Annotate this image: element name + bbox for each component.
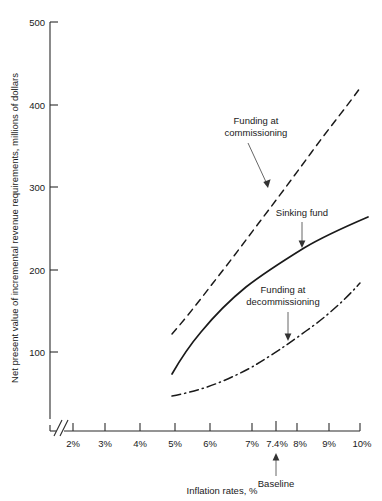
x-tick-label: 10%	[352, 438, 372, 449]
x-tick-label: 7%	[245, 438, 259, 449]
annotation-funding-at-commissioning: Funding at commissioning	[225, 115, 288, 188]
y-tick-label: 200	[29, 265, 45, 276]
baseline-label: Baseline	[258, 478, 294, 489]
y-tick-400: 400	[29, 100, 58, 111]
y-ticks-group: 100 200 300 400 500	[29, 17, 58, 358]
axis-break-marks	[54, 420, 68, 436]
x-tick-5pct: 5%	[168, 423, 182, 449]
annotation-label-line2: commissioning	[225, 127, 288, 138]
y-tick-100: 100	[29, 347, 58, 358]
axes-group	[50, 22, 360, 436]
chart-canvas: 100 200 300 400 500 2%	[0, 0, 382, 501]
x-tick-label: 6%	[203, 438, 217, 449]
x-tick-10pct: 10%	[352, 438, 372, 449]
x-tick-6pct: 6%	[203, 423, 217, 449]
x-tick-2pct: 2%	[66, 423, 80, 449]
y-tick-300: 300	[29, 182, 58, 193]
x-tick-7pct: 7%	[245, 423, 259, 449]
y-tick-label: 300	[29, 182, 45, 193]
y-tick-500: 500	[29, 17, 58, 28]
x-tick-3pct: 3%	[98, 423, 112, 449]
annotation-label-line2: decommissioning	[246, 296, 319, 307]
x-tick-label: 5%	[168, 438, 182, 449]
x-tick-4pct: 4%	[133, 423, 147, 449]
annotation-funding-at-decommissioning: Funding at decommissioning	[246, 284, 319, 341]
annotation-label-sinking-fund: Sinking fund	[276, 207, 328, 218]
x-tick-label: 8%	[293, 438, 307, 449]
x-tick-label: 4%	[133, 438, 147, 449]
baseline-marker: Baseline	[258, 453, 294, 489]
x-tick-8pct: 8%	[293, 423, 307, 449]
annotation-sinking-fund: Sinking fund	[276, 207, 328, 248]
x-tick-7-4pct: 7.4%	[266, 421, 288, 449]
x-tick-label: 9%	[322, 438, 336, 449]
y-tick-label: 500	[29, 17, 45, 28]
x-ticks-group: 2% 3% 4% 5% 6% 7%	[66, 421, 372, 449]
chart-figure: 100 200 300 400 500 2%	[0, 0, 382, 501]
y-tick-200: 200	[29, 265, 58, 276]
y-tick-label: 400	[29, 100, 45, 111]
x-tick-label: 7.4%	[266, 438, 288, 449]
y-tick-label: 100	[29, 347, 45, 358]
annotation-label-line1: Funding at	[234, 115, 279, 126]
x-tick-label: 3%	[98, 438, 112, 449]
x-tick-label: 2%	[66, 438, 80, 449]
x-tick-9pct: 9%	[322, 423, 336, 449]
x-axis-title: Inflation rates, %	[187, 485, 258, 496]
y-axis-title: Net present value of incremental revenue…	[9, 73, 20, 383]
annotation-label-line1: Funding at	[261, 284, 306, 295]
